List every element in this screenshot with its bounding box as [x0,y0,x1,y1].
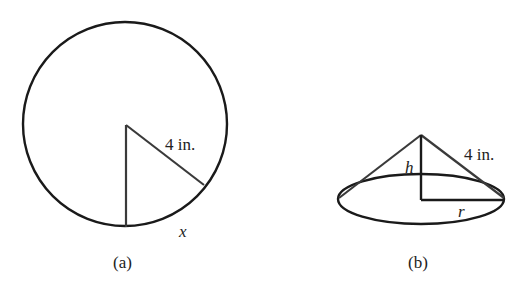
figure-b: h 4 in. r (b) [338,135,504,272]
slanted-radius [126,125,204,185]
figure-canvas: 4 in. x (a) h 4 in. r (b) [0,0,529,291]
figure-a: 4 in. x (a) [23,22,227,272]
radius-label-r: r [458,202,465,221]
caption-a: (a) [113,253,132,272]
height-label-h: h [405,158,414,177]
slant-label: 4 in. [464,145,494,164]
arc-label-x: x [178,222,187,241]
caption-b: (b) [408,253,428,272]
radius-label-a: 4 in. [165,135,195,154]
